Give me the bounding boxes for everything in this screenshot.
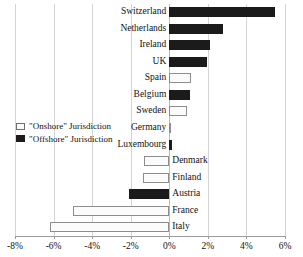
legend-item-onshore: "Onshore" Jurisdiction: [16, 120, 112, 133]
bar-row: Belgium: [15, 87, 285, 104]
bar-luxembourg: [169, 140, 172, 150]
x-tick-label-4: 4%: [226, 240, 266, 252]
bar-label-denmark: Denmark: [172, 152, 207, 168]
bar-belgium: [169, 90, 190, 100]
bar-row: Netherlands: [15, 21, 285, 38]
bar-row: Austria: [15, 186, 285, 203]
bar-label-italy: Italy: [172, 218, 189, 234]
bar-label-sweden: Sweden: [136, 102, 166, 118]
bar-france: [73, 206, 169, 216]
bar-austria: [129, 189, 170, 199]
legend-item-offshore: "Offshore" Jurisdiction: [16, 133, 112, 146]
x-tick--4: [92, 236, 93, 239]
bar-uk: [169, 57, 207, 67]
bar-row: Switzerland: [15, 4, 285, 21]
bar-spain: [169, 73, 191, 83]
bar-label-belgium: Belgium: [134, 86, 167, 102]
bar-label-switzerland: Switzerland: [121, 3, 166, 19]
legend-label-offshore: "Offshore" Jurisdiction: [29, 133, 112, 146]
bar-label-germany: Germany: [131, 119, 166, 135]
x-tick-label-2: 2%: [188, 240, 228, 252]
x-tick-label--8: -8%: [0, 240, 35, 252]
bar-row: Ireland: [15, 37, 285, 54]
x-tick--8: [15, 236, 16, 239]
bar-row: France: [15, 203, 285, 220]
bar-label-france: France: [172, 202, 198, 218]
bar-chart: SwitzerlandNetherlandsIrelandUKSpainBelg…: [0, 0, 303, 257]
bar-row: Denmark: [15, 153, 285, 170]
x-tick-4: [246, 236, 247, 239]
x-tick-6: [285, 236, 286, 239]
legend-label-onshore: "Onshore" Jurisdiction: [29, 120, 111, 133]
x-tick--2: [131, 236, 132, 239]
x-tick-label--6: -6%: [34, 240, 74, 252]
bar-label-luxembourg: Luxembourg: [117, 136, 166, 152]
x-tick-label--4: -4%: [72, 240, 112, 252]
bar-italy: [50, 222, 170, 232]
legend-swatch-offshore-icon: [16, 135, 25, 142]
bar-finland: [143, 173, 169, 183]
bar-row: Finland: [15, 170, 285, 187]
x-tick-label-0: 0%: [149, 240, 189, 252]
bar-ireland: [169, 40, 210, 50]
bar-sweden: [169, 106, 186, 116]
x-tick-label-6: 6%: [265, 240, 303, 252]
bar-row: Italy: [15, 219, 285, 236]
legend-swatch-onshore-icon: [16, 123, 25, 130]
x-axis-line: [15, 236, 285, 237]
bar-label-austria: Austria: [172, 185, 200, 201]
bar-denmark: [144, 156, 169, 166]
bar-label-spain: Spain: [145, 69, 167, 85]
bar-switzerland: [169, 7, 275, 17]
bar-row: UK: [15, 54, 285, 71]
bar-label-finland: Finland: [172, 169, 201, 185]
bar-netherlands: [169, 24, 223, 34]
bar-label-netherlands: Netherlands: [120, 20, 166, 36]
bar-label-uk: UK: [153, 53, 167, 69]
x-tick-0: [169, 236, 170, 239]
bar-row: Spain: [15, 70, 285, 87]
x-tick--6: [54, 236, 55, 239]
gridline-6: [285, 4, 286, 236]
bar-row: Sweden: [15, 103, 285, 120]
x-tick-2: [208, 236, 209, 239]
x-tick-label--2: -2%: [111, 240, 151, 252]
legend: "Onshore" Jurisdiction "Offshore" Jurisd…: [16, 120, 112, 145]
bar-label-ireland: Ireland: [139, 36, 166, 52]
bar-germany: [169, 123, 171, 133]
